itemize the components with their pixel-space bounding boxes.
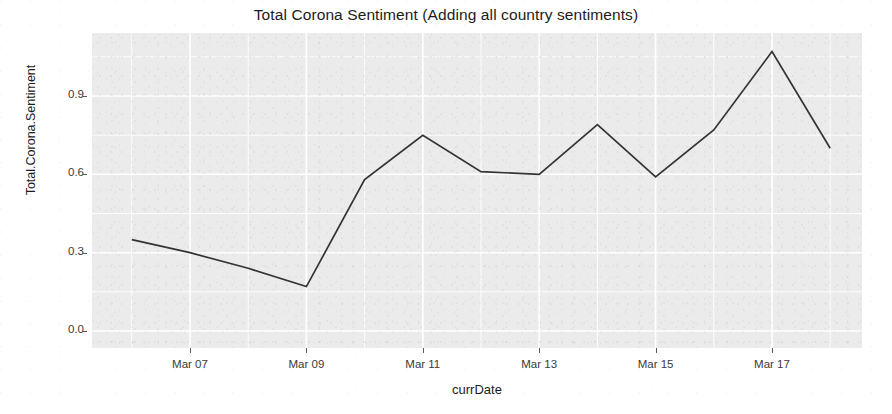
chart-title: Total Corona Sentiment (Adding all count…: [0, 5, 892, 25]
x-tick-mark: [656, 348, 657, 353]
x-tick-mark: [190, 348, 191, 353]
y-tick-label: 0.3: [38, 245, 84, 257]
x-tick-label: Mar 17: [737, 358, 807, 370]
y-tick-mark: [82, 174, 87, 175]
x-tick-label: Mar 11: [388, 358, 458, 370]
y-axis-ticks: 0.00.30.60.9: [30, 33, 84, 348]
y-tick-label: 0.0: [38, 323, 84, 335]
y-tick-mark: [82, 331, 87, 332]
x-tick-label: Mar 13: [504, 358, 574, 370]
x-axis-ticks: Mar 07Mar 09Mar 11Mar 13Mar 15Mar 17: [92, 348, 862, 378]
y-tick-label: 0.6: [38, 166, 84, 178]
x-tick-mark: [306, 348, 307, 353]
x-tick-label: Mar 07: [155, 358, 225, 370]
x-tick-label: Mar 09: [271, 358, 341, 370]
x-tick-mark: [772, 348, 773, 353]
y-tick-mark: [82, 253, 87, 254]
x-tick-mark: [539, 348, 540, 353]
y-tick-label: 0.9: [38, 88, 84, 100]
x-tick-label: Mar 15: [621, 358, 691, 370]
plot-panel: [92, 33, 862, 348]
chart-figure: Total Corona Sentiment (Adding all count…: [0, 0, 892, 414]
y-tick-mark: [82, 96, 87, 97]
data-line-series: [92, 33, 862, 348]
x-axis-title: currDate: [92, 382, 862, 397]
x-tick-mark: [423, 348, 424, 353]
